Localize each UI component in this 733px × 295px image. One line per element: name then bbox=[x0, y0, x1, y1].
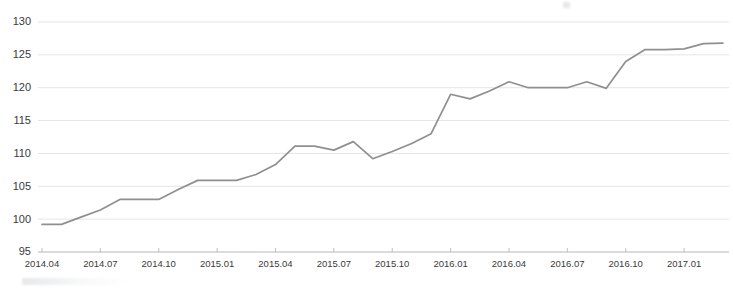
x-axis-label-2015.07: 2015.07 bbox=[317, 258, 351, 269]
y-axis-label-115: 115 bbox=[13, 114, 31, 126]
y-axis-label-105: 105 bbox=[13, 180, 31, 192]
gridlines bbox=[38, 22, 729, 252]
y-axis-label-120: 120 bbox=[13, 81, 31, 93]
y-axis-label-110: 110 bbox=[13, 147, 31, 159]
y-axis-label-130: 130 bbox=[13, 15, 31, 27]
x-axis-label-2016.07: 2016.07 bbox=[550, 258, 584, 269]
line-chart: 95100105110115120125130 2014.042014.0720… bbox=[0, 0, 733, 295]
chart-plot-area: 95100105110115120125130 2014.042014.0720… bbox=[0, 0, 733, 295]
x-axis-label-2015.01: 2015.01 bbox=[200, 258, 234, 269]
x-axis-tick-marks bbox=[42, 248, 684, 252]
x-axis-tick-labels: 2014.042014.072014.102015.012015.042015.… bbox=[25, 258, 701, 269]
x-axis-label-2014.07: 2014.07 bbox=[83, 258, 117, 269]
y-axis-label-95: 95 bbox=[19, 245, 31, 257]
x-axis-label-2017.01: 2017.01 bbox=[667, 258, 701, 269]
x-axis-label-2015.04: 2015.04 bbox=[258, 258, 292, 269]
x-axis-label-2016.01: 2016.01 bbox=[433, 258, 467, 269]
y-axis-tick-labels: 95100105110115120125130 bbox=[13, 15, 31, 257]
series-line-index bbox=[42, 43, 723, 224]
scan-artifact-smudge bbox=[22, 278, 132, 285]
x-axis-label-2014.04: 2014.04 bbox=[25, 258, 59, 269]
y-axis-label-125: 125 bbox=[13, 48, 31, 60]
x-axis-label-2015.10: 2015.10 bbox=[375, 258, 409, 269]
scan-artifact-dot bbox=[563, 2, 570, 8]
x-axis-label-2016.10: 2016.10 bbox=[609, 258, 643, 269]
x-axis-label-2014.10: 2014.10 bbox=[142, 258, 176, 269]
x-axis-label-2016.04: 2016.04 bbox=[492, 258, 526, 269]
y-axis-label-100: 100 bbox=[13, 213, 31, 225]
